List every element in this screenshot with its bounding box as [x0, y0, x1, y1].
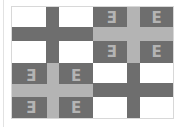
quadrant-bottom-right: [93, 63, 174, 119]
flag-image: Ǝ E Ǝ E Ǝ E Ǝ E: [12, 7, 173, 118]
firesteel-glyph-icon: E: [150, 10, 164, 26]
cross-horizontal-bar: [12, 27, 93, 41]
firesteel-glyph-icon: Ǝ: [105, 10, 119, 26]
cross-horizontal-bar: [93, 83, 174, 97]
firesteel-glyph-icon: E: [69, 100, 83, 116]
firesteel-glyph-icon: Ǝ: [24, 68, 38, 84]
firesteel-glyph-icon: E: [150, 44, 164, 60]
quadrant-bottom-left: Ǝ E Ǝ E: [12, 63, 93, 119]
firesteel-glyph-icon: Ǝ: [105, 44, 119, 60]
quadrant-top-left: [12, 7, 93, 63]
firesteel-glyph-icon: E: [69, 68, 83, 84]
cross-horizontal-bar: [93, 27, 174, 41]
cross-horizontal-bar: [12, 84, 93, 97]
quadrant-top-right: Ǝ E Ǝ E: [93, 7, 174, 63]
left-border-line: [3, 0, 4, 127]
firesteel-glyph-icon: Ǝ: [24, 100, 38, 116]
